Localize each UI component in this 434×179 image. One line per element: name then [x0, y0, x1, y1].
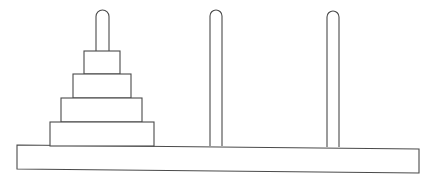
base-platform [17, 145, 419, 173]
peg-left [96, 10, 109, 51]
disk-4 [50, 122, 154, 146]
disks [50, 51, 154, 146]
peg-middle [210, 10, 222, 146]
disk-1 [84, 51, 120, 74]
disk-2 [73, 74, 131, 98]
peg-right [327, 11, 339, 147]
base [17, 145, 419, 173]
disk-3 [61, 98, 142, 122]
tower-of-hanoi-diagram [0, 0, 434, 179]
